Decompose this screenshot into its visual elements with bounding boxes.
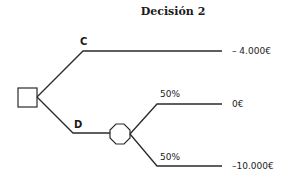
tree-lines xyxy=(0,0,289,185)
branch-c-line xyxy=(37,51,222,97)
chance-node-octagon xyxy=(110,124,130,144)
branch-d-label: D xyxy=(74,119,82,130)
diagram-title: Decisión 2 xyxy=(0,5,289,18)
outcome-upper-line xyxy=(130,104,222,134)
outcome-upper-probability: 50% xyxy=(160,89,180,99)
branch-c-payoff: – 4.000€ xyxy=(232,46,271,56)
decision-node-square xyxy=(18,88,37,107)
outcome-lower-probability: 50% xyxy=(160,152,180,162)
branch-c-label: C xyxy=(80,36,87,47)
decision-tree-diagram: Decisión 2 C – 4.000€ D 50% 0€ 50% –10.0… xyxy=(0,0,289,185)
outcome-upper-payoff: 0€ xyxy=(232,99,243,109)
outcome-lower-payoff: –10.000€ xyxy=(232,161,274,171)
